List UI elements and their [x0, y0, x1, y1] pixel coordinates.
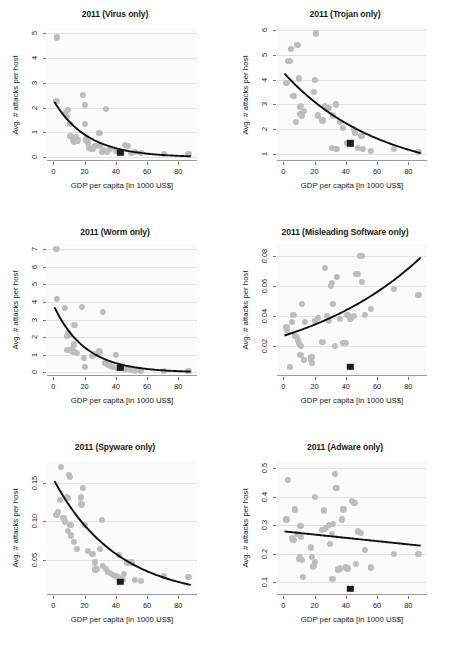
y-tick-mark [273, 286, 276, 287]
x-axis-title: GDP per capita [in 1000 US$] [47, 181, 197, 190]
y-tick-label: 0 [30, 370, 39, 374]
y-tick-mark [43, 521, 46, 522]
y-tick-mark [43, 483, 46, 484]
x-tick-label: 20 [80, 601, 88, 610]
x-tick-label: 20 [310, 167, 318, 176]
y-tick-mark [43, 302, 46, 303]
y-tick-label: 0.04 [260, 309, 269, 323]
x-tick-mark [147, 377, 148, 380]
panel-title: 2011 (Adware only) [230, 442, 460, 452]
x-tick-label: 80 [404, 601, 412, 610]
x-tick-mark [116, 596, 117, 599]
x-axis-line [277, 160, 427, 161]
x-tick-label: 0 [51, 601, 55, 610]
x-tick-mark [85, 377, 86, 380]
y-tick-label: 5 [30, 31, 39, 35]
y-tick-label: 3 [30, 81, 39, 85]
x-axis-title: GDP per capita [in 1000 US$] [47, 396, 197, 405]
x-tick-label: 0 [51, 167, 55, 176]
y-tick-mark [43, 372, 46, 373]
x-tick-label: 20 [80, 167, 88, 176]
x-tick-label: 60 [373, 382, 381, 391]
x-tick-mark [408, 377, 409, 380]
y-tick-label: 0.02 [260, 339, 269, 353]
plot-area: 0204060800.020.040.060.08GDP per capita … [277, 244, 427, 376]
y-tick-label: 2 [30, 105, 39, 109]
x-tick-mark [346, 162, 347, 165]
x-tick-mark [283, 162, 284, 165]
x-tick-label: 40 [342, 382, 350, 391]
x-tick-mark [315, 596, 316, 599]
y-tick-mark [43, 249, 46, 250]
x-tick-mark [283, 596, 284, 599]
panel-title: 2011 (Virus only) [0, 9, 230, 19]
x-tick-mark [377, 162, 378, 165]
y-tick-label: 7 [30, 247, 39, 251]
x-tick-mark [116, 377, 117, 380]
scatter-panel-grid: 2011 (Virus only)020406080012345GDP per … [0, 0, 460, 655]
x-tick-mark [408, 162, 409, 165]
plot-area: 0204060800.050.100.15GDP per capita [in … [47, 461, 197, 595]
y-tick-mark [43, 337, 46, 338]
y-tick-mark [273, 154, 276, 155]
fit-line [47, 28, 197, 161]
y-tick-mark [43, 560, 46, 561]
chart-panel-2: 2011 (Trojan only)020406080123456GDP per… [230, 0, 460, 218]
y-tick-mark [273, 316, 276, 317]
y-tick-mark [273, 468, 276, 469]
x-axis-title: GDP per capita [in 1000 US$] [277, 181, 427, 190]
plot-canvas [47, 244, 197, 376]
y-tick-label: 1 [30, 353, 39, 357]
y-tick-label: 4 [30, 56, 39, 60]
x-tick-label: 40 [112, 382, 120, 391]
x-tick-mark [85, 162, 86, 165]
chart-panel-1: 2011 (Virus only)020406080012345GDP per … [0, 0, 230, 218]
y-tick-label: 5 [30, 282, 39, 286]
x-tick-label: 20 [80, 382, 88, 391]
y-tick-label: 0.2 [260, 549, 269, 559]
x-tick-label: 20 [310, 601, 318, 610]
x-axis-line [47, 594, 197, 595]
x-tick-label: 60 [143, 382, 151, 391]
y-tick-label: 0.4 [260, 491, 269, 501]
y-tick-label: 0.10 [30, 514, 39, 528]
x-tick-label: 80 [404, 382, 412, 391]
panel-title: 2011 (Worm only) [0, 227, 230, 237]
x-tick-mark [147, 596, 148, 599]
x-tick-label: 60 [143, 601, 151, 610]
x-tick-label: 60 [373, 167, 381, 176]
x-tick-mark [178, 377, 179, 380]
y-tick-mark [273, 129, 276, 130]
chart-panel-5: 2011 (Spyware only)0204060800.050.100.15… [0, 433, 230, 655]
plot-area: 020406080012345GDP per capita [in 1000 U… [47, 28, 197, 161]
y-tick-label: 2 [30, 335, 39, 339]
x-axis-line [47, 160, 197, 161]
plot-area: 020406080123456GDP per capita [in 1000 U… [277, 28, 427, 161]
x-axis-line [277, 375, 427, 376]
x-tick-label: 40 [342, 167, 350, 176]
plot-area: 02040608001234567GDP per capita [in 1000… [47, 244, 197, 376]
x-tick-label: 40 [112, 167, 120, 176]
highlight-marker [347, 140, 353, 146]
y-tick-label: 0.08 [260, 249, 269, 263]
highlight-marker [117, 579, 123, 585]
chart-panel-4: 2011 (Misleading Software only)020406080… [230, 218, 460, 433]
x-axis-title: GDP per capita [in 1000 US$] [47, 615, 197, 624]
y-tick-mark [43, 320, 46, 321]
x-tick-mark [315, 162, 316, 165]
y-tick-label: 0.1 [260, 577, 269, 587]
x-tick-mark [346, 596, 347, 599]
highlight-marker [347, 364, 353, 370]
x-tick-label: 80 [174, 382, 182, 391]
fit-line [47, 461, 197, 595]
x-tick-mark [346, 377, 347, 380]
plot-canvas [47, 28, 197, 161]
x-tick-mark [147, 162, 148, 165]
y-tick-mark [273, 346, 276, 347]
x-tick-label: 40 [112, 601, 120, 610]
highlight-marker [117, 150, 123, 156]
y-tick-label: 0.3 [260, 520, 269, 530]
x-tick-label: 40 [342, 601, 350, 610]
y-tick-mark [273, 104, 276, 105]
y-tick-label: 5 [260, 53, 269, 57]
